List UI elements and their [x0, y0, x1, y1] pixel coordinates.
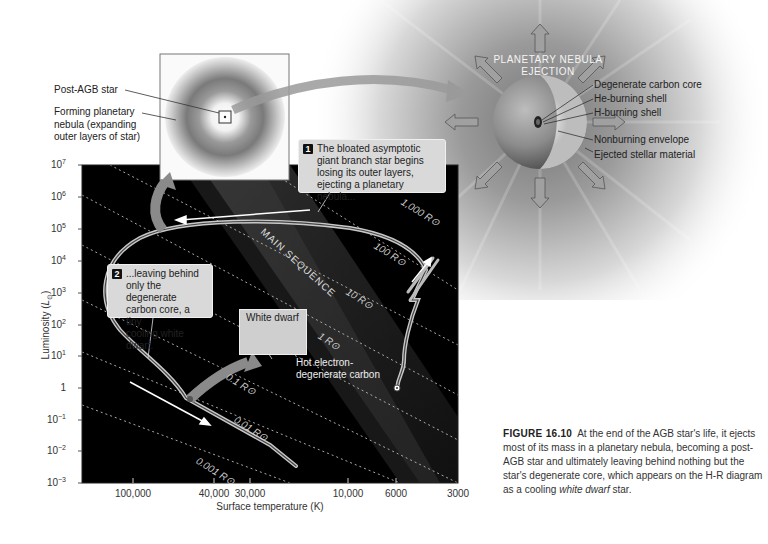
post-agb-label: Post-AGB star	[54, 84, 118, 96]
y-tick-1e4: 104	[36, 254, 66, 266]
x-tick-30000: 30,000	[235, 488, 266, 499]
x-tick-40000: 40,000	[199, 488, 230, 499]
layer-label-h-shell: H-burning shell	[594, 107, 661, 119]
step-number-badge: 2	[112, 269, 122, 279]
y-tick-1e-1: 10−1	[36, 413, 66, 425]
y-tick-1e-2: 10−2	[36, 444, 66, 456]
white-dwarf-title: White dwarf	[246, 312, 299, 324]
forming-nebula-label: Forming planetary nebula (expanding oute…	[54, 106, 140, 144]
y-tick-1e7: 107	[36, 158, 66, 170]
y-tick-1e5: 105	[36, 222, 66, 234]
figure-number: FIGURE 16.10	[503, 428, 572, 439]
x-axis-title: Surface temperature (K)	[216, 501, 323, 512]
layer-label-he-shell: He-burning shell	[594, 93, 667, 105]
step1-callout: 1 The bloated asymptotic giant branch st…	[298, 139, 446, 193]
white-dwarf-desc: Hot electron- degenerate carbon	[296, 357, 380, 381]
y-tick-1: 1	[36, 381, 66, 393]
x-tick-6000: 6000	[385, 488, 407, 499]
x-tick-10000: 10,000	[333, 488, 364, 499]
figure-caption: FIGURE 16.10 At the end of the AGB star'…	[503, 427, 765, 497]
x-tick-3000: 3000	[447, 488, 469, 499]
y-tick-1e6: 106	[36, 190, 66, 202]
step2-callout: 2 ...leaving behind only the degenerate …	[107, 264, 213, 318]
layer-label-envelope: Nonburning envelope	[594, 134, 689, 146]
step-number-badge: 1	[303, 144, 313, 154]
layer-label-core: Degenerate carbon core	[594, 79, 702, 91]
y-tick-1e-3: 10−3	[36, 476, 66, 488]
y-axis-title: Luminosity (L⊙)	[40, 270, 54, 380]
x-tick-100000: 100,000	[115, 488, 151, 499]
ejection-title: PLANETARY NEBULA EJECTION	[478, 54, 618, 78]
layer-label-ejected: Ejected stellar material	[594, 149, 695, 161]
